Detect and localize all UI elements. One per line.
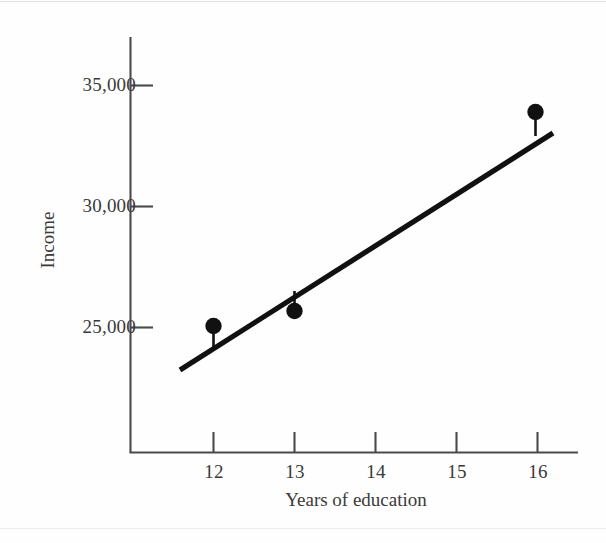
x-tick-label-15: 15 (447, 461, 466, 483)
x-axis-ticks (214, 432, 538, 452)
x-tick-label-12: 12 (204, 461, 223, 483)
y-tick-label-35000: 35,000 (83, 74, 136, 96)
regression-line (180, 133, 553, 370)
data-point-12 (205, 318, 221, 334)
y-tick-label-30000: 30,000 (83, 195, 136, 217)
data-point-16 (527, 104, 543, 120)
x-tick-label-16: 16 (528, 461, 547, 483)
x-tick-label-14: 14 (366, 461, 385, 483)
x-axis-title: Years of education (285, 489, 427, 511)
figure-root: 35,000 30,000 25,000 12 13 14 15 16 Year… (0, 0, 606, 543)
residual-stems (214, 112, 536, 349)
x-tick-label-13: 13 (285, 461, 304, 483)
data-point-13 (286, 303, 302, 319)
y-tick-label-25000: 25,000 (83, 316, 136, 338)
data-points (205, 104, 543, 334)
y-axis-title: Income (37, 212, 59, 269)
